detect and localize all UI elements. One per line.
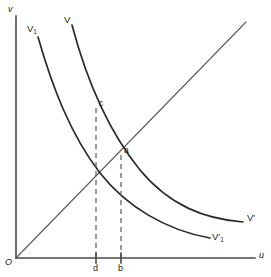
x-tick-label-b: b — [118, 264, 123, 273]
curve-v-end-prime: ′ — [253, 212, 255, 223]
point-label-c: c — [99, 99, 103, 108]
figure-root: v u O V1 V V′ V′1 c a d b — [0, 0, 271, 277]
curve-v1-start-subscript: 1 — [33, 28, 37, 35]
curve-v1-start-label: V1 — [27, 24, 37, 35]
curve-v — [72, 25, 243, 222]
curve-v-start-label: V — [64, 15, 70, 25]
curve-v1-end-label: V′1 — [212, 232, 224, 244]
origin-label: O — [5, 258, 12, 267]
curve-v1-end-subscript: 1 — [220, 236, 224, 243]
ray-45-degree — [16, 22, 246, 258]
point-label-a: a — [124, 146, 129, 155]
x-tick-label-d: d — [93, 264, 98, 273]
curve-v-end-label: V′ — [247, 213, 255, 223]
figure-canvas — [0, 0, 271, 277]
curve-v1 — [38, 37, 210, 238]
x-axis-label: u — [259, 251, 264, 260]
y-axis-label: v — [8, 5, 13, 14]
